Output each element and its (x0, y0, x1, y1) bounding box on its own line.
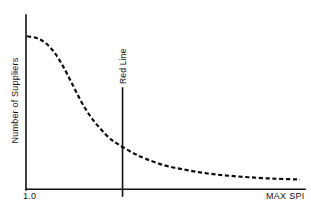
chart-canvas (0, 0, 311, 215)
chart-figure: Number of Suppliers Red Line 1.0 MAX SPI (0, 0, 311, 215)
x-axis-tick-max: MAX SPI (266, 192, 305, 201)
x-axis-tick-min: 1.0 (23, 192, 36, 201)
y-axis-label: Number of Suppliers (11, 55, 20, 147)
red-line-annotation-label: Red Line (118, 42, 127, 90)
supplier-decay-curve (27, 36, 300, 179)
